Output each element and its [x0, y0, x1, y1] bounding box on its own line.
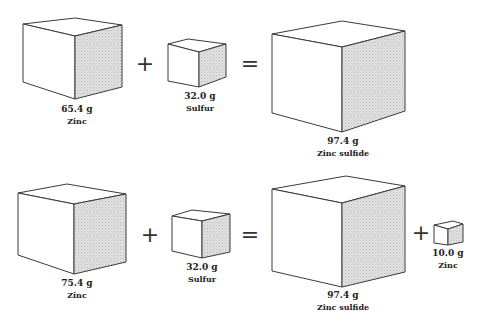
cube-front-face: [434, 225, 448, 245]
plus-sign: +: [412, 220, 430, 245]
cube-zinc: 65.4 gZinc: [23, 18, 122, 126]
cube-side-face: [199, 44, 226, 87]
cube-zinc: 75.4 gZinc: [18, 184, 126, 300]
cube-front-face: [172, 216, 202, 258]
substance-label: Zinc sulfide: [317, 302, 369, 312]
equals-sign: =: [241, 51, 259, 76]
cube-front-face: [272, 189, 342, 287]
cube-side-face: [342, 186, 405, 287]
plus-sign: +: [136, 51, 154, 76]
cube-side-face: [75, 25, 122, 99]
cube-side-face: [202, 214, 230, 258]
cube-front-face: [18, 193, 74, 274]
diagram-content: 65.4 gZinc32.0 gSulfur97.4 gZinc sulfide…: [18, 18, 464, 312]
cube-side-face: [342, 31, 405, 132]
mass-label: 10.0 g: [432, 248, 464, 258]
zinc-sulfur-reaction-diagram: 65.4 gZinc32.0 gSulfur97.4 gZinc sulfide…: [0, 0, 479, 324]
substance-label: Zinc: [67, 116, 87, 126]
mass-label: 97.4 g: [327, 136, 359, 146]
mass-label: 32.0 g: [186, 262, 218, 272]
cube-sulfur: 32.0 gSulfur: [168, 39, 226, 113]
cube-zinc: 10.0 gZinc: [432, 221, 464, 270]
plus-sign: +: [141, 222, 159, 247]
cube-zinc-sulfide: 97.4 gZinc sulfide: [272, 176, 405, 312]
mass-label: 97.4 g: [327, 290, 359, 300]
reaction-2: 75.4 gZinc32.0 gSulfur97.4 gZinc sulfide…: [18, 176, 464, 312]
substance-label: Zinc: [438, 260, 458, 270]
substance-label: Zinc sulfide: [317, 148, 369, 158]
equals-sign: =: [241, 222, 259, 247]
substance-label: Sulfur: [186, 103, 215, 113]
substance-label: Sulfur: [188, 274, 217, 284]
cube-sulfur: 32.0 gSulfur: [172, 210, 230, 284]
substance-label: Zinc: [67, 290, 87, 300]
mass-label: 32.0 g: [184, 91, 216, 101]
cube-zinc-sulfide: 97.4 gZinc sulfide: [272, 21, 405, 158]
cube-front-face: [272, 34, 342, 132]
cube-front-face: [23, 24, 75, 99]
mass-label: 75.4 g: [61, 278, 93, 288]
cube-side-face: [74, 194, 126, 274]
cube-front-face: [168, 44, 199, 87]
reaction-1: 65.4 gZinc32.0 gSulfur97.4 gZinc sulfide…: [23, 18, 405, 158]
mass-label: 65.4 g: [61, 104, 93, 114]
